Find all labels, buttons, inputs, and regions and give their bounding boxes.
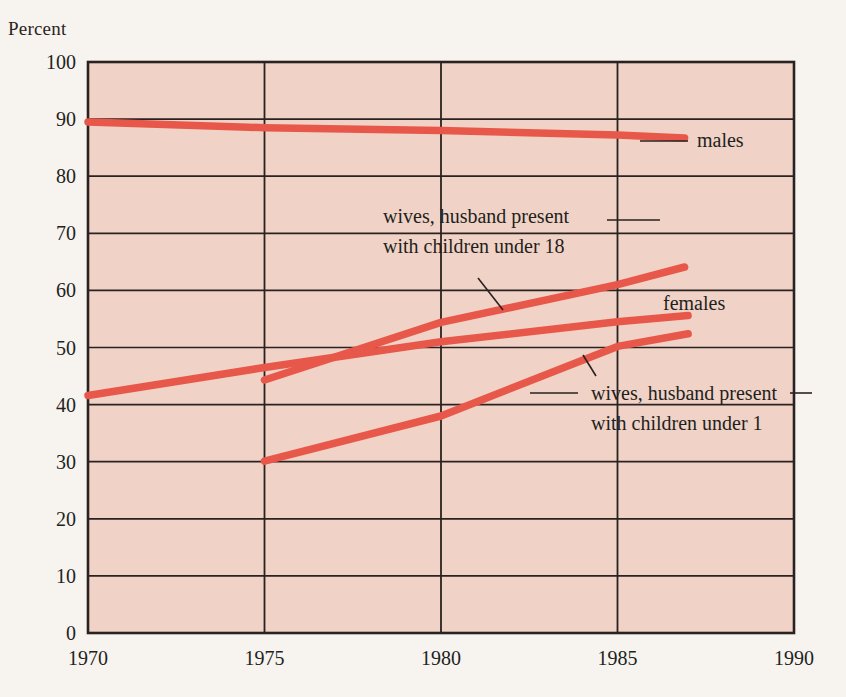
y-tick-70: 70 — [56, 222, 76, 244]
y-axis-tick-labels: 0102030405060708090100 — [46, 51, 76, 644]
line-chart: 0102030405060708090100 19701975198019851… — [0, 0, 846, 697]
y-tick-80: 80 — [56, 165, 76, 187]
x-tick-1990: 1990 — [774, 647, 814, 669]
annotation-line: females — [663, 292, 725, 314]
y-tick-10: 10 — [56, 565, 76, 587]
x-axis-tick-labels: 19701975198019851990 — [68, 647, 814, 669]
x-tick-1970: 1970 — [68, 647, 108, 669]
annotation-males: males — [697, 129, 744, 151]
y-tick-100: 100 — [46, 51, 76, 73]
annotation-line: with children under 18 — [383, 235, 565, 257]
x-tick-1980: 1980 — [421, 647, 461, 669]
y-tick-0: 0 — [66, 622, 76, 644]
annotation-line: wives, husband present — [591, 382, 778, 405]
y-tick-20: 20 — [56, 508, 76, 530]
y-tick-90: 90 — [56, 108, 76, 130]
y-tick-40: 40 — [56, 394, 76, 416]
x-tick-1975: 1975 — [245, 647, 285, 669]
y-tick-30: 30 — [56, 451, 76, 473]
annotation-females: females — [663, 292, 725, 314]
annotation-line: males — [697, 129, 744, 151]
y-tick-50: 50 — [56, 337, 76, 359]
annotation-line: wives, husband present — [383, 205, 570, 228]
y-tick-60: 60 — [56, 279, 76, 301]
annotation-line: with children under 1 — [591, 412, 763, 434]
figure-container: Percent 0102030405060708090100 197019751… — [0, 0, 846, 697]
x-tick-1985: 1985 — [598, 647, 638, 669]
